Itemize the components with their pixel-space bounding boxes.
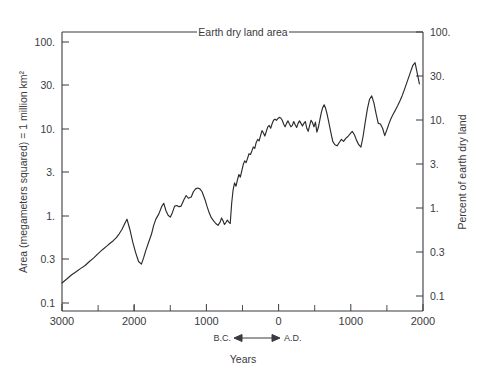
- era-arrow-head-left-icon: [234, 335, 242, 342]
- y-axis-title-right: Percent of earth dry land: [456, 114, 468, 229]
- left-tick-label-0.1: 0.1: [40, 297, 55, 309]
- x-tick-label-0: 0: [276, 315, 282, 327]
- right-tick-label-0.1: 0.1: [430, 290, 445, 302]
- left-tick-label-1: 1.: [46, 210, 55, 222]
- right-tick-label-30: 30.: [430, 70, 445, 82]
- x-tick-label-1000ad: 1000: [339, 315, 363, 327]
- x-axis-title: Years: [230, 353, 256, 365]
- x-axis-ticks: [62, 304, 423, 311]
- era-annotation: B.C. A.D.: [213, 333, 301, 343]
- data-series-line: [62, 63, 419, 283]
- left-tick-label-10: 10.: [40, 123, 55, 135]
- left-tick-label-30: 30.: [40, 79, 55, 91]
- x-axis-tick-labels: 3000 2000 1000 0 1000 2000: [50, 315, 435, 327]
- chart-title: Earth dry land area: [198, 26, 287, 38]
- right-axis-tick-labels: 100. 30. 10. 3. 1. 0.3 0.1: [430, 26, 450, 302]
- left-axis-tick-labels: 100. 30. 10. 3. 1. 0.3 0.1: [35, 36, 56, 309]
- chart-figure: Earth dry land area 100. 30. 10. 3. 1. 0…: [0, 0, 486, 380]
- left-tick-label-3: 3.: [46, 166, 55, 178]
- right-tick-label-100: 100.: [430, 26, 450, 38]
- plot-frame: [62, 32, 423, 311]
- right-tick-label-10: 10.: [430, 114, 445, 126]
- y-axis-title-left: Area (megameters squared) = 1 million km…: [17, 70, 29, 273]
- x-tick-label-2000bc: 2000: [122, 315, 146, 327]
- left-tick-label-100: 100.: [35, 36, 55, 48]
- era-label-ad: A.D.: [284, 333, 302, 343]
- left-axis-ticks: [62, 42, 69, 303]
- right-tick-label-3: 3.: [430, 158, 439, 170]
- x-tick-label-1000bc: 1000: [194, 315, 218, 327]
- right-tick-label-0.3: 0.3: [430, 246, 445, 258]
- x-tick-label-3000: 3000: [50, 315, 74, 327]
- left-tick-label-0.3: 0.3: [40, 253, 55, 265]
- era-arrow-head-right-icon: [272, 335, 280, 342]
- era-label-bc: B.C.: [213, 333, 231, 343]
- x-tick-label-2000ad: 2000: [411, 315, 435, 327]
- earth-dry-land-area-chart: Earth dry land area 100. 30. 10. 3. 1. 0…: [0, 0, 486, 380]
- right-tick-label-1: 1.: [430, 202, 439, 214]
